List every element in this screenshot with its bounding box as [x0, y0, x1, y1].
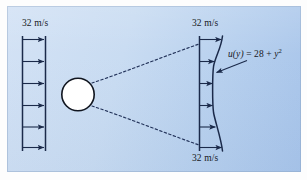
equation-exponent: 2 — [279, 47, 282, 54]
equation-leader-arrow — [217, 61, 248, 73]
wake-boundary-upper — [92, 44, 199, 83]
equation-operator: = 28 + — [244, 49, 275, 59]
label-outlet-velocity-bottom: 32 m/s — [192, 154, 218, 164]
label-wake-equation: u(y) = 28 + y2 — [228, 50, 282, 60]
downstream-profile-curve — [213, 36, 223, 151]
figure-root: 32 m/s 32 m/s 32 m/s u(y) = 28 + y2 — [0, 0, 307, 180]
equation-function: u(y) — [228, 49, 244, 59]
upstream-velocity-profile — [23, 36, 46, 151]
label-inlet-velocity: 32 m/s — [22, 19, 48, 29]
wake-boundary-lower — [92, 106, 199, 145]
cylinder-circle — [62, 78, 94, 110]
label-outlet-velocity-top: 32 m/s — [192, 19, 218, 29]
upstream-arrow-group — [23, 40, 44, 148]
wake-boundary-group — [92, 44, 199, 145]
downstream-velocity-profile — [200, 36, 223, 151]
